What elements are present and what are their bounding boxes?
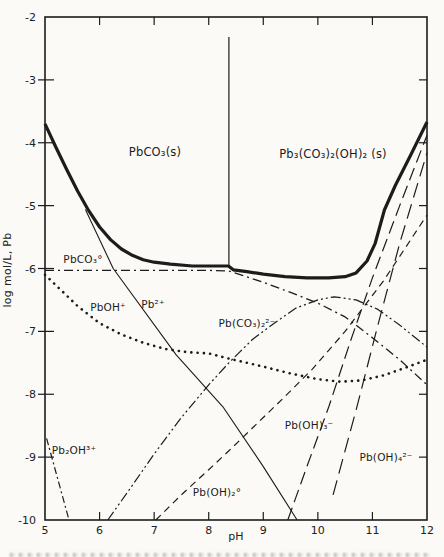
cutoff-caption-strip — [10, 553, 432, 557]
y-axis-title: log mol/L, Pb — [1, 210, 17, 330]
series-pbco32-curve — [108, 297, 427, 520]
label-pboh3: Pb(OH)₃⁻ — [285, 419, 334, 431]
series-pboh4-curve — [333, 153, 427, 495]
region-hydrocerussite: Pb₃(CO₃)₂(OH)₂ (s) — [279, 147, 387, 161]
label-pb2: Pb²⁺ — [141, 298, 165, 310]
y-tick-label--2: -2 — [25, 11, 36, 24]
label-pbco32: Pb(CO₃)₂²⁻ — [219, 317, 276, 329]
x-axis-title: pH — [45, 530, 427, 543]
y-tick-label--8: -8 — [25, 388, 36, 401]
series-pboh2-curve — [156, 215, 427, 520]
y-tick-label--6: -6 — [25, 263, 36, 276]
series-pb2-curve — [85, 209, 297, 520]
y-tick-label--9: -9 — [25, 451, 36, 464]
y-tick-label--10: -10 — [18, 514, 36, 527]
y-tick-label--7: -7 — [25, 325, 36, 338]
y-tick-label--3: -3 — [25, 74, 36, 87]
y-tick-label--4: -4 — [25, 137, 36, 150]
region-pbco3-solid: PbCO₃(s) — [129, 145, 182, 159]
label-pboh: PbOH⁺ — [90, 301, 126, 313]
label-pboh4: Pb(OH)₄²⁻ — [359, 451, 412, 463]
label-pb2oh: Pb₂OH³⁺ — [52, 444, 97, 456]
label-pboh2: Pb(OH)₂° — [193, 486, 241, 498]
label-pbco3-aq: PbCO₃° — [63, 253, 102, 265]
y-tick-label--5: -5 — [25, 200, 36, 213]
scanned-chart-page: 56789101112-2-3-4-5-6-7-8-9-10PbCO₃(s)Pb… — [0, 0, 444, 557]
pb-solubility-log-c-ph-diagram: 56789101112-2-3-4-5-6-7-8-9-10PbCO₃(s)Pb… — [0, 0, 444, 557]
